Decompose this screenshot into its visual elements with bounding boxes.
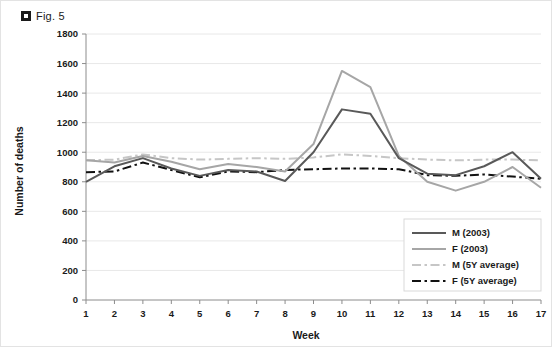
x-tick-label: 13 — [422, 308, 433, 319]
x-tick-label: 6 — [226, 308, 231, 319]
y-tick-label: 0 — [73, 294, 78, 305]
y-tick-label: 1200 — [57, 117, 78, 128]
x-axis-tick-labels: 1234567891011121314151617 — [83, 308, 546, 319]
x-tick-label: 17 — [536, 308, 547, 319]
chart-legend: M (2003)F (2003)M (5Y average)F (5Y aver… — [404, 219, 541, 291]
x-tick-label: 5 — [197, 308, 203, 319]
x-tick-label: 4 — [169, 308, 175, 319]
legend-label-f_2003: F (2003) — [452, 243, 488, 254]
y-axis-tick-labels: 020040060080010001200140016001800 — [57, 28, 78, 305]
x-tick-label: 2 — [112, 308, 117, 319]
x-tick-label: 14 — [450, 308, 461, 319]
y-tick-label: 1800 — [57, 28, 78, 39]
y-tick-label: 800 — [62, 176, 78, 187]
x-tick-label: 1 — [83, 308, 89, 319]
series-line-f_2003 — [86, 71, 541, 191]
legend-label-m_2003: M (2003) — [452, 227, 490, 238]
x-tick-label: 7 — [254, 308, 259, 319]
y-tick-label: 1000 — [57, 147, 78, 158]
figure-container: Fig. 5 020040060080010001200140016001800… — [0, 0, 552, 347]
x-tick-label: 15 — [479, 308, 490, 319]
x-tick-label: 3 — [140, 308, 145, 319]
y-tick-label: 400 — [62, 235, 78, 246]
y-axis-title: Number of deaths — [13, 126, 25, 215]
x-tick-label: 12 — [394, 308, 405, 319]
y-tick-label: 600 — [62, 206, 78, 217]
series-group — [86, 71, 541, 191]
x-axis-title: Week — [292, 329, 319, 341]
x-tick-label: 11 — [365, 308, 376, 319]
legend-label-m_5y_avg: M (5Y average) — [452, 259, 519, 270]
series-line-m_2003 — [86, 109, 541, 181]
legend-label-f_5y_avg: F (5Y average) — [452, 275, 517, 286]
x-tick-label: 8 — [282, 308, 287, 319]
y-tick-label: 1400 — [57, 88, 78, 99]
y-tick-label: 1600 — [57, 58, 78, 69]
line-chart: 020040060080010001200140016001800 123456… — [1, 1, 552, 347]
x-tick-label: 9 — [311, 308, 316, 319]
y-tick-label: 200 — [62, 265, 78, 276]
x-tick-label: 16 — [507, 308, 518, 319]
x-tick-label: 10 — [337, 308, 348, 319]
